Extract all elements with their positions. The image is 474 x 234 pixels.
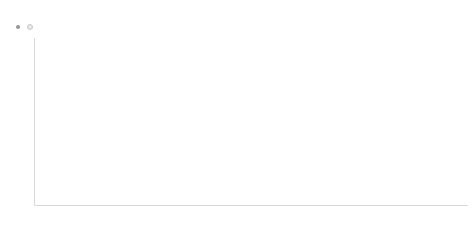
chart-root (0, 0, 474, 234)
legend (9, 24, 35, 30)
legend-swatch-retail (16, 25, 20, 29)
x-axis-line (34, 205, 468, 206)
x-axis-ticks (35, 207, 468, 217)
y-axis-ticks (0, 38, 34, 205)
legend-swatch-wholesale (27, 24, 33, 30)
legend-item-wholesale[interactable] (27, 24, 35, 30)
bar-group (35, 38, 468, 205)
legend-item-retail[interactable] (16, 25, 22, 29)
